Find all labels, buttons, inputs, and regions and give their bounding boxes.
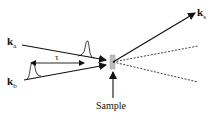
label-ka-sub: a <box>13 42 16 50</box>
label-kb: kb <box>7 76 17 90</box>
label-ka: ka <box>7 36 16 50</box>
transmitted-beam-b <box>113 62 198 82</box>
label-sample: Sample <box>96 101 126 111</box>
beam-ka <box>22 41 106 60</box>
beam-ks <box>113 13 195 62</box>
label-ks: ks <box>197 7 206 21</box>
beam-kb <box>24 62 106 80</box>
pulse-ka-icon <box>78 41 94 58</box>
pulse-kb-icon <box>27 62 41 79</box>
label-kb-sub: b <box>13 82 17 90</box>
label-tau: τ <box>55 53 59 62</box>
label-ks-sub: s <box>203 13 206 21</box>
